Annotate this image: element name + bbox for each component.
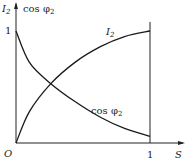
curve-i2 <box>16 31 150 143</box>
curve-cos-phi2 <box>16 31 150 136</box>
y-tick-label-1: 1 <box>5 25 11 36</box>
x-tick-label-1: 1 <box>147 149 153 160</box>
series-label-cos-phi2: cos φ2 <box>91 105 122 118</box>
chart: I2 cos φ2 1 1 S O I2 cos φ2 <box>0 0 189 167</box>
x-axis-arrow-icon <box>178 141 185 145</box>
origin-label: O <box>4 148 12 159</box>
y-axis-label-cos-phi2: cos φ2 <box>23 3 54 16</box>
series-label-i2: I2 <box>105 26 115 39</box>
y-axis-arrow-icon <box>14 2 18 9</box>
x-axis-label-s: S <box>175 149 182 160</box>
y-axis-label-i2: I2 <box>1 3 11 16</box>
